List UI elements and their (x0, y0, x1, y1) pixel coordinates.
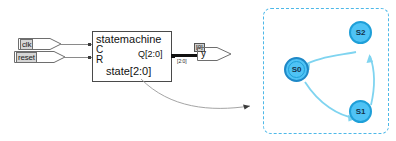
fsm-state-S1[interactable]: S1 (349, 100, 372, 123)
statemachine-output-port-label: Q[2:0] (138, 49, 163, 59)
schematic-canvas: clk reset statemachine C R Q[2:0] state[… (0, 0, 396, 141)
fsm-state-S0-label: S0 (292, 66, 301, 74)
input-port-clk-label: clk (20, 39, 33, 50)
wire-clk-junction (88, 43, 91, 46)
statemachine-block-title: statemachine (96, 33, 161, 45)
output-bus-wire (174, 54, 197, 57)
fsm-state-S1-label: S1 (356, 108, 365, 116)
wire-reset-junction (88, 56, 91, 59)
output-port-y-label: y (201, 49, 206, 59)
fsm-link-connector (140, 78, 265, 114)
input-port-reset-label: reset (16, 52, 37, 63)
fsm-state-S0[interactable]: S0 (288, 61, 305, 78)
fsm-state-S2-label: S2 (356, 29, 365, 37)
fsm-state-S2[interactable]: S2 (349, 21, 372, 44)
statemachine-pin-reset: R (96, 55, 103, 65)
statemachine-state-label: state[2:0] (106, 65, 151, 77)
output-bus-width-tag: [2:0] (177, 58, 187, 64)
